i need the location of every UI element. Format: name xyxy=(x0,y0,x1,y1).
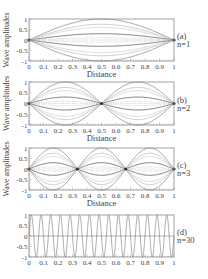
x-tick-label: 0.8 xyxy=(141,127,150,135)
y-tick-label: 0.5 xyxy=(19,26,28,34)
node-marker xyxy=(100,102,103,105)
x-tick-label: 0.9 xyxy=(155,259,164,267)
y-axis-title: Wave amplitudes xyxy=(2,141,11,196)
y-tick-label: 0 xyxy=(24,100,28,108)
mode-label: n=1 xyxy=(177,39,190,49)
x-tick-label: 0.2 xyxy=(54,63,63,71)
y-tick-label: -1 xyxy=(22,122,28,130)
y-tick-label: 1 xyxy=(24,212,28,220)
x-tick-label: 0.9 xyxy=(155,192,164,200)
x-tick-label: 0.6 xyxy=(112,259,121,267)
y-tick-label: 0 xyxy=(24,166,28,174)
x-tick-label: 0.9 xyxy=(155,127,164,135)
y-tick-label: -1 xyxy=(22,187,28,195)
y-tick-label: 0.5 xyxy=(19,155,28,163)
y-tick-label: 0.5 xyxy=(19,222,28,230)
x-tick-label: 0.7 xyxy=(126,127,135,135)
x-tick-label: 0.2 xyxy=(54,259,63,267)
x-tick-label: 1 xyxy=(172,192,176,200)
panel-c: 00.10.20.30.40.50.60.70.80.9110.50-0.5-1… xyxy=(2,141,191,208)
x-tick-label: 0.1 xyxy=(39,192,48,200)
x-tick-label: 0 xyxy=(27,259,31,267)
x-axis-title: Distance xyxy=(87,69,117,79)
mode-label: n=30 xyxy=(177,235,195,245)
x-tick-label: 0.9 xyxy=(155,63,164,71)
x-tick-label: 0.7 xyxy=(126,63,135,71)
x-axis-title: Distance xyxy=(87,133,117,143)
y-tick-label: -1 xyxy=(22,58,28,66)
y-tick-label: 0 xyxy=(24,233,28,241)
y-tick-label: 1 xyxy=(24,16,28,24)
node-marker xyxy=(76,167,79,170)
y-axis-title: Wave amplitudes xyxy=(2,12,11,67)
x-tick-label: 0 xyxy=(27,192,31,200)
x-tick-label: 1 xyxy=(172,63,176,71)
x-tick-label: 0.3 xyxy=(68,192,77,200)
y-tick-label: -0.5 xyxy=(16,47,28,55)
x-tick-label: 0.1 xyxy=(39,63,48,71)
x-tick-label: 0.2 xyxy=(54,192,63,200)
mode-label: n=3 xyxy=(177,168,190,178)
y-tick-label: 0.5 xyxy=(19,89,28,97)
x-tick-label: 1 xyxy=(172,127,176,135)
x-tick-label: 0.8 xyxy=(141,63,150,71)
x-tick-label: 0 xyxy=(27,63,31,71)
x-tick-label: 0.5 xyxy=(97,259,106,267)
x-tick-label: 0.4 xyxy=(83,259,92,267)
y-tick-label: -0.5 xyxy=(16,243,28,251)
x-tick-label: 0.8 xyxy=(141,192,150,200)
x-tick-label: 0 xyxy=(27,127,31,135)
standing-wave-figure: 00.10.20.30.40.50.60.70.80.9110.50-0.5-1… xyxy=(0,0,208,279)
x-tick-label: 0.7 xyxy=(126,192,135,200)
y-tick-label: -1 xyxy=(22,254,28,262)
x-tick-label: 0.1 xyxy=(39,127,48,135)
mode-label: n=2 xyxy=(177,103,190,113)
x-tick-label: 0.8 xyxy=(141,259,150,267)
x-tick-label: 0.3 xyxy=(68,259,77,267)
panel-b: 00.10.20.30.40.50.60.70.80.9110.50-0.5-1… xyxy=(2,76,191,143)
y-tick-label: -0.5 xyxy=(16,176,28,184)
node-marker xyxy=(124,167,127,170)
x-axis-title: Distance xyxy=(87,198,117,208)
panel-a: 00.10.20.30.40.50.60.70.80.9110.50-0.5-1… xyxy=(2,12,191,79)
y-axis-title: Wave amplitudes xyxy=(2,76,11,131)
y-tick-label: 1 xyxy=(24,145,28,153)
x-tick-label: 0.3 xyxy=(68,63,77,71)
y-tick-label: -0.5 xyxy=(16,111,28,119)
y-tick-label: 0 xyxy=(24,37,28,45)
x-tick-label: 1 xyxy=(172,259,176,267)
x-tick-label: 0.2 xyxy=(54,127,63,135)
x-tick-label: 0.1 xyxy=(39,259,48,267)
x-tick-label: 0.7 xyxy=(126,259,135,267)
panel-d: 00.10.20.30.40.50.60.70.80.9110.50-0.5-1… xyxy=(16,212,194,267)
y-tick-label: 1 xyxy=(24,79,28,87)
x-tick-label: 0.3 xyxy=(68,127,77,135)
